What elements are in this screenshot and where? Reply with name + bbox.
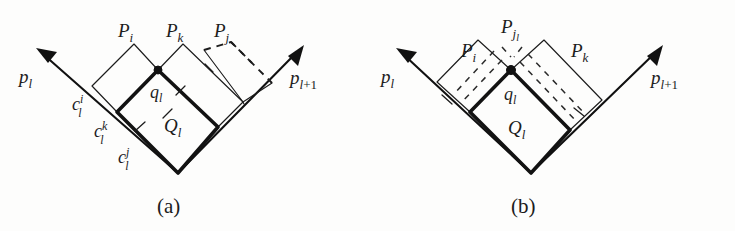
label-P-k: Pk [570,40,589,65]
label-p-l-plus-1: pl+1 [649,67,678,92]
label-P-jl: Pjl [500,16,519,43]
figure-root: Pi Pk Pj pl pl+1 cil ckl cjl ql Ql (a) [0,0,735,231]
label-q-l: ql [150,82,163,105]
label-Q-l: Ql [164,115,182,140]
figure-panel-a: Pi Pk Pj pl pl+1 cil ckl cjl ql Ql (a) [0,0,367,231]
region-P-j-outline [204,42,272,104]
arrowhead-p-l-plus-1 [288,45,304,66]
label-P-k: Pk [165,20,184,45]
figure-panel-b: Pi Pjl Pk pl pl+1 ql Ql (b) [368,0,735,231]
label-p-l: pl [17,66,33,91]
panel-a-drawing: Pi Pk Pj pl pl+1 cil ckl cjl ql Ql (a) [0,0,367,231]
tick-mark [135,122,145,131]
arrowhead-p-l [396,48,417,63]
arrowhead-p-l-plus-1 [647,45,663,66]
panel-b-drawing: Pi Pjl Pk pl pl+1 ql Ql (b) [368,0,735,231]
label-q-l: ql [504,84,517,107]
caption-panel-b: (b) [511,194,536,218]
tick-mark [205,64,213,72]
label-P-j: Pj [213,20,230,45]
label-p-l-plus-1: pl+1 [288,67,317,92]
vertex-q-l-dot [507,66,516,75]
tick-mark [574,108,584,116]
label-p-l: pl [379,66,395,91]
label-P-i: Pi [117,20,134,45]
caption-panel-a: (a) [157,194,180,218]
label-c-l-i: cil [72,92,83,120]
vertex-q-l-dot [154,66,162,74]
label-Q-l: Ql [508,117,526,142]
label-c-l-k: ckl [94,119,108,147]
arrowhead-p-l [36,48,57,63]
label-c-l-j: cjl [118,145,130,173]
